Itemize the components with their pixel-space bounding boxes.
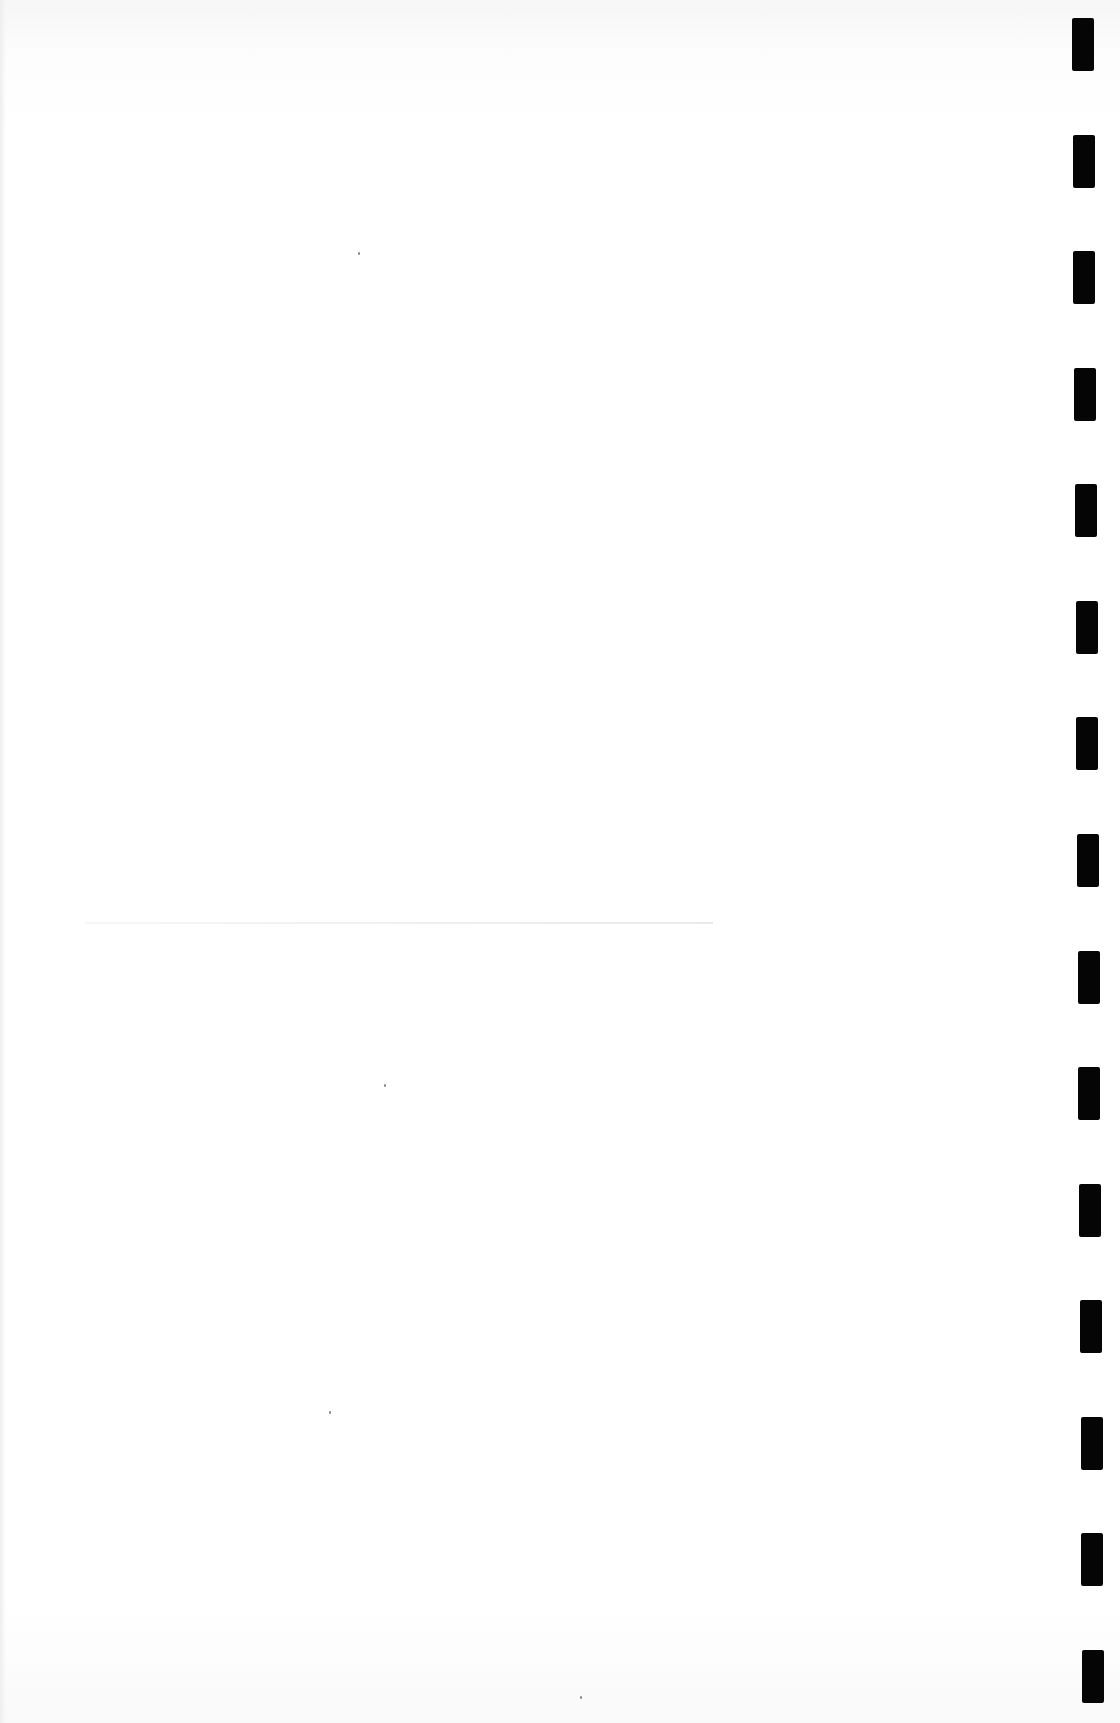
binding-hole	[1081, 1533, 1103, 1586]
binding-hole	[1075, 484, 1097, 537]
binding-hole	[1074, 368, 1096, 421]
binding-hole	[1076, 717, 1098, 770]
binding-hole	[1073, 251, 1095, 304]
binding-hole	[1080, 1300, 1102, 1353]
binding-hole	[1082, 1650, 1104, 1703]
binding-hole	[1072, 18, 1094, 71]
binding-hole	[1078, 951, 1100, 1004]
binding-hole	[1079, 1184, 1101, 1237]
binding-hole	[1076, 601, 1098, 654]
binding-hole	[1078, 1067, 1100, 1120]
scan-speck	[358, 252, 360, 255]
page-edge-shadow	[0, 0, 6, 1723]
binding-hole	[1077, 834, 1099, 887]
faint-horizontal-rule	[85, 922, 713, 924]
scan-speck	[384, 1084, 386, 1087]
binding-hole	[1073, 135, 1095, 188]
scan-speck	[329, 1411, 331, 1414]
scanned-blank-page	[0, 0, 1120, 1723]
scan-speck	[580, 1696, 582, 1699]
binding-hole	[1081, 1417, 1103, 1470]
